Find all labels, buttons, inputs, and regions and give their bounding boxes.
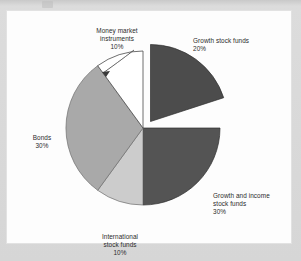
slice-label-line-value: 30% <box>213 208 270 216</box>
slice-label-line-value: 30% <box>33 142 52 150</box>
slice-label-line-name-1: Growth and income <box>213 192 270 200</box>
slice-label-line-name: Bonds <box>33 134 52 142</box>
slice-label-bonds: Bonds 30% <box>33 134 52 150</box>
chart-panel: Growth stock funds 20% Growth and income… <box>7 11 291 243</box>
scan-artifact <box>42 1 53 8</box>
pie-slice-growth-stock-funds[interactable] <box>151 45 224 122</box>
slice-label-line-name: Growth stock funds <box>193 37 249 45</box>
slice-label-growth-and-income-stock-funds: Growth and income stock funds 30% <box>213 192 270 217</box>
slice-label-line-name-1: International <box>102 233 138 241</box>
slice-label-line-value: 20% <box>193 45 249 53</box>
pie-slice-growth-and-income-stock-funds[interactable] <box>143 128 220 205</box>
slice-label-money-market-instruments: Money market instruments 10% <box>96 27 137 52</box>
slice-label-line-name-2: stock funds <box>102 241 138 249</box>
slice-label-international-stock-funds: International stock funds 10% <box>102 233 138 258</box>
slice-label-line-value: 10% <box>102 249 138 257</box>
pie-slice-growth-stock-funds-group[interactable] <box>151 45 224 122</box>
slice-label-line-value: 10% <box>96 43 137 51</box>
slice-label-line-name-2: stock funds <box>213 200 270 208</box>
slice-label-line-name-1: Money market <box>96 27 137 35</box>
slice-label-growth-stock-funds: Growth stock funds 20% <box>193 37 249 53</box>
slice-label-line-name-2: instruments <box>96 35 137 43</box>
